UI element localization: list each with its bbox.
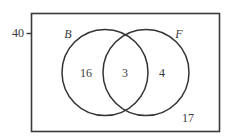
set-f-circle: [103, 30, 189, 116]
set-f-label: F: [175, 28, 182, 40]
b-only-count: 16: [80, 67, 92, 79]
intersection-count: 3: [122, 67, 128, 79]
set-b-circle: [62, 30, 148, 116]
set-b-label: B: [64, 28, 71, 40]
venn-diagram: [0, 0, 232, 137]
outside-count: 17: [182, 112, 194, 124]
universe-total-label: 40: [12, 27, 24, 39]
f-only-count: 4: [159, 67, 165, 79]
